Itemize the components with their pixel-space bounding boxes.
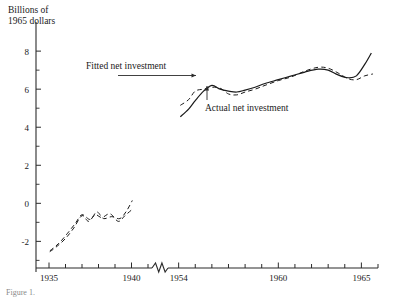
- svg-text:0: 0: [25, 199, 30, 209]
- figure-container: -20246819351940195419601965 Billions of1…: [0, 0, 401, 301]
- annotation-fitted-label: Fitted net investment: [86, 61, 166, 72]
- y-axis-title-line1: Billions of: [8, 5, 48, 15]
- chart-axes: [36, 22, 378, 272]
- series-path: [50, 200, 133, 250]
- annotation-actual-label: Actual net investment: [205, 103, 288, 114]
- svg-text:8: 8: [25, 47, 30, 57]
- svg-text:6: 6: [25, 85, 30, 95]
- chart-canvas: -20246819351940195419601965: [0, 0, 401, 301]
- axis-tick-labels: -20246819351940195419601965: [22, 47, 371, 283]
- svg-text:1960: 1960: [269, 273, 288, 283]
- svg-text:-2: -2: [22, 237, 30, 247]
- svg-text:2: 2: [25, 161, 30, 171]
- series-path: [50, 210, 132, 252]
- y-axis-title-line2: 1965 dollars: [8, 16, 55, 26]
- figure-caption: Figure 1.: [6, 289, 35, 298]
- svg-text:1965: 1965: [352, 273, 371, 283]
- chart-series-group: [50, 53, 373, 252]
- y-axis-title: Billions of1965 dollars: [8, 5, 55, 26]
- svg-text:1935: 1935: [40, 273, 59, 283]
- svg-text:4: 4: [25, 123, 30, 133]
- annotation-arrows: [118, 73, 209, 100]
- svg-text:1940: 1940: [123, 273, 142, 283]
- svg-text:1954: 1954: [170, 273, 189, 283]
